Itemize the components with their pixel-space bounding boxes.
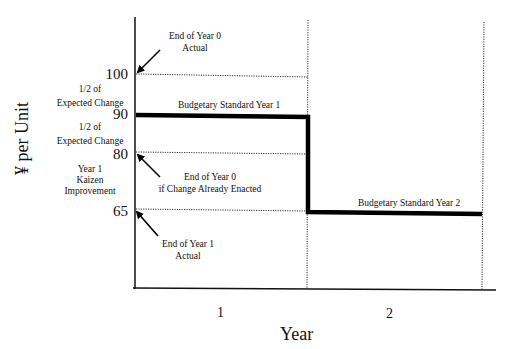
kaizen-line1: Year 1 [55,164,125,175]
note-eoy0-enacted: End of Year 0 if Change Already Enacted [145,171,275,195]
x-axis-title: Year [280,324,313,345]
ref-line-65 [136,209,307,211]
y-tick-80: 80 [88,146,128,162]
half-upper-line1: 1/2 of [55,82,125,96]
note-eoy0-actual: End of Year 0 Actual [160,30,230,54]
y-tick-100: 100 [88,66,128,82]
half-expected-change-lower: 1/2 of Expected Change [55,120,125,148]
x-tick-1: 1 [217,305,224,321]
note-eoy0-enacted-line1: End of Year 0 [145,171,275,183]
label-budgetary-standard-year2: Budgetary Standard Year 2 [358,197,460,209]
x-tick-2: 2 [386,306,393,322]
kaizen-improvement-label: Year 1 Kaizen Improvement [55,164,125,197]
arrow-eoy0-actual [138,50,160,72]
half-lower-line1: 1/2 of [55,120,125,134]
kaizen-line3: Improvement [55,186,125,197]
arrow-eoy1-actual [137,212,158,236]
note-eoy1-actual-line2: Actual [153,250,223,262]
y-tick-65: 65 [88,203,128,219]
note-eoy0-enacted-line2: if Change Already Enacted [145,183,275,195]
y-axis-title: ¥ per Unit [12,89,33,189]
note-eoy1-actual-line1: End of Year 1 [153,238,223,250]
label-budgetary-standard-year1: Budgetary Standard Year 1 [178,99,280,111]
kaizen-line2: Kaizen [55,175,125,186]
half-upper-line2: Expected Change [55,96,125,110]
year2-divider [482,22,484,290]
note-eoy1-actual: End of Year 1 Actual [153,238,223,262]
half-lower-line2: Expected Change [55,134,125,148]
note-eoy0-actual-line1: End of Year 0 [160,30,230,42]
ref-line-80 [136,152,307,154]
half-expected-change-upper: 1/2 of Expected Change [55,82,125,110]
ref-line-100 [136,74,308,77]
x-axis [133,288,496,290]
note-eoy0-actual-line2: Actual [160,42,230,54]
